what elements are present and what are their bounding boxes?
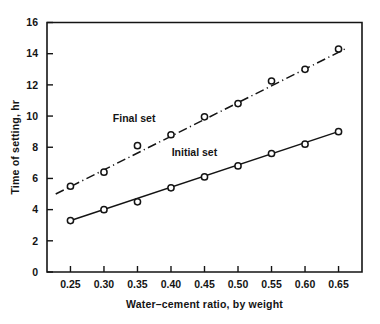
chart-plot-area: 02468101214160.250.300.350.400.450.500.5… bbox=[0, 0, 380, 324]
data-point-initial-set bbox=[201, 174, 207, 180]
data-point-final-set bbox=[168, 132, 174, 138]
data-point-final-set bbox=[67, 183, 73, 189]
data-point-final-set bbox=[235, 100, 241, 106]
x-tick-label: 0.45 bbox=[194, 278, 215, 290]
y-tick-label: 4 bbox=[32, 203, 38, 215]
y-tick-label: 8 bbox=[32, 141, 38, 153]
data-point-final-set bbox=[201, 114, 207, 120]
x-tick-label: 0.25 bbox=[60, 278, 81, 290]
series-label-initial-set: Initial set bbox=[172, 146, 218, 158]
x-tick-label: 0.40 bbox=[161, 278, 182, 290]
x-tick-label: 0.60 bbox=[295, 278, 316, 290]
y-axis-title: Time of setting, hr bbox=[9, 100, 21, 195]
chart-figure: 02468101214160.250.300.350.400.450.500.5… bbox=[0, 0, 380, 324]
y-tick-label: 6 bbox=[32, 172, 38, 184]
y-tick-label: 0 bbox=[32, 266, 38, 278]
x-tick-label: 0.50 bbox=[228, 278, 249, 290]
y-tick-label: 2 bbox=[32, 235, 38, 247]
data-point-initial-set bbox=[101, 207, 107, 213]
data-point-initial-set bbox=[335, 129, 341, 135]
data-point-final-set bbox=[302, 66, 308, 72]
x-tick-label: 0.65 bbox=[328, 278, 349, 290]
y-tick-label: 10 bbox=[26, 110, 38, 122]
x-tick-label: 0.35 bbox=[127, 278, 148, 290]
data-point-initial-set bbox=[268, 150, 274, 156]
data-point-initial-set bbox=[302, 141, 308, 147]
data-point-initial-set bbox=[134, 199, 140, 205]
y-tick-label: 16 bbox=[26, 16, 38, 28]
y-tick-label: 12 bbox=[26, 79, 38, 91]
data-point-initial-set bbox=[67, 217, 73, 223]
data-point-initial-set bbox=[168, 185, 174, 191]
data-point-final-set bbox=[268, 78, 274, 84]
x-tick-label: 0.30 bbox=[94, 278, 115, 290]
data-point-final-set bbox=[134, 143, 140, 149]
x-axis-title: Water–cement ratio, by weight bbox=[126, 298, 283, 310]
y-tick-label: 14 bbox=[26, 47, 38, 59]
data-point-initial-set bbox=[235, 163, 241, 169]
x-tick-label: 0.55 bbox=[261, 278, 282, 290]
series-label-final-set: Final set bbox=[113, 112, 156, 124]
data-point-final-set bbox=[335, 46, 341, 52]
data-point-final-set bbox=[101, 169, 107, 175]
